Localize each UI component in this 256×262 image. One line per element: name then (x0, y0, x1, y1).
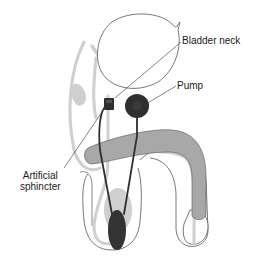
cuff-highlight (106, 100, 112, 103)
label-artificial-sphincter: Artificial sphincter (20, 170, 61, 192)
reservoir-balloon (108, 210, 126, 250)
seminal-vesicle (71, 84, 86, 106)
bladder (97, 14, 180, 88)
pump-center (132, 101, 142, 111)
sphincter-cuff (104, 98, 114, 110)
label-bladder-neck: Bladder neck (182, 35, 240, 46)
label-artificial-sphincter-line1: Artificial (20, 170, 61, 181)
label-artificial-sphincter-line2: sphincter (20, 181, 61, 192)
label-pump: Pump (177, 80, 203, 91)
